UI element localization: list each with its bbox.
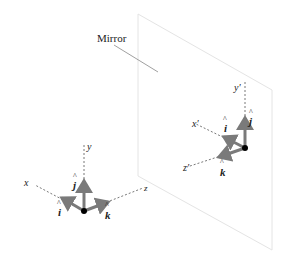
right-i-hat: ^ — [223, 115, 227, 124]
mirror-label: Mirror — [97, 32, 127, 44]
left-y-label: y — [86, 141, 92, 152]
left-i-hat: ^ — [57, 199, 61, 208]
right-k-label: k — [220, 166, 226, 178]
left-z-label: z — [143, 183, 148, 193]
left-k-hat: ^ — [105, 201, 109, 210]
left-k-label: k — [105, 209, 111, 221]
left-x-label: x — [23, 177, 29, 188]
right-x-label: x′ — [191, 118, 199, 129]
left-origin-dot — [81, 208, 87, 214]
mirror-reflection-diagram: Mirror y x z j ^ i ^ k ^ y′ x′ z′ j ^ — [0, 0, 286, 263]
left-j-hat: ^ — [73, 172, 77, 181]
left-i-arrow — [62, 198, 84, 211]
right-k-hat: ^ — [220, 158, 224, 167]
right-y-label: y′ — [233, 82, 241, 93]
right-j-hat: ^ — [249, 108, 253, 117]
mirror-plane — [138, 14, 272, 250]
right-origin-dot — [242, 145, 248, 151]
left-coordinate-frame: y x z j ^ i ^ k ^ — [23, 141, 148, 221]
right-z-label: z′ — [182, 162, 190, 173]
